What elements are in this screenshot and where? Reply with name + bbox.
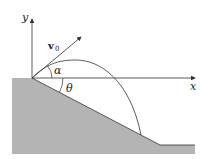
x-axis-label: x [190, 80, 197, 93]
y-axis-label: y [21, 11, 29, 24]
theta-arc [60, 78, 64, 92]
ground-slope [12, 78, 195, 154]
velocity-label: v [47, 40, 55, 51]
alpha-label: α [54, 64, 62, 77]
theta-label: θ [66, 82, 73, 95]
velocity-subscript: 0 [55, 45, 59, 53]
alpha-arc [48, 66, 53, 79]
projectile-slope-diagram: y x v 0 α θ [0, 0, 211, 159]
